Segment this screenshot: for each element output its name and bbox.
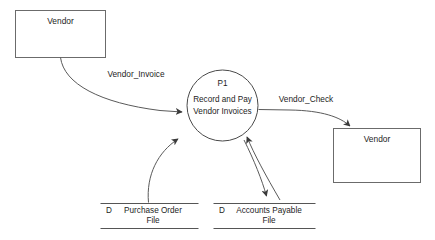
data-store-accounts-payable-file[interactable]: D Accounts Payable File <box>214 204 316 229</box>
flow-accounts-payable-read[interactable] <box>247 137 280 200</box>
data-store-purchase-order-file[interactable]: D Purchase Order File <box>101 204 199 229</box>
process-p1[interactable]: P1 Record and Pay Vendor Invoices <box>187 70 258 141</box>
accounts-payable-file-label-line1: Accounts Payable <box>236 206 302 215</box>
flow-vendor-check[interactable]: Vendor_Check <box>259 94 351 126</box>
accounts-payable-file-label-line2: File <box>262 216 276 225</box>
dfd-canvas: Vendor Vendor P1 Record and Pay Vendor I… <box>0 0 435 240</box>
entity-vendor-source[interactable]: Vendor <box>16 11 106 58</box>
flow-accounts-payable-read-path <box>247 137 280 200</box>
flow-vendor-check-path <box>259 110 351 127</box>
process-p1-id: P1 <box>217 79 227 88</box>
flow-vendor-invoice-path <box>61 58 183 113</box>
flow-vendor-invoice[interactable]: Vendor_Invoice <box>61 58 183 113</box>
flow-vendor-invoice-label: Vendor_Invoice <box>107 69 165 79</box>
dfd-svg: Vendor Vendor P1 Record and Pay Vendor I… <box>0 0 435 240</box>
process-p1-name-line1: Record and Pay <box>193 95 253 104</box>
flow-vendor-check-label: Vendor_Check <box>279 94 334 104</box>
purchase-order-file-prefix: D <box>106 206 112 215</box>
process-p1-name-line2: Vendor Invoices <box>193 107 251 116</box>
accounts-payable-file-prefix: D <box>219 206 225 215</box>
purchase-order-file-label-line2: File <box>146 216 160 225</box>
flow-purchase-order-read[interactable] <box>148 139 178 203</box>
entity-vendor-source-label: Vendor <box>47 16 74 26</box>
entity-vendor-sink-label: Vendor <box>364 134 391 144</box>
purchase-order-file-label-line1: Purchase Order <box>124 206 182 215</box>
flow-purchase-order-read-path <box>148 139 178 203</box>
flow-accounts-payable-write[interactable] <box>244 140 267 196</box>
entity-vendor-sink[interactable]: Vendor <box>334 129 421 183</box>
flow-accounts-payable-write-path <box>244 140 267 196</box>
